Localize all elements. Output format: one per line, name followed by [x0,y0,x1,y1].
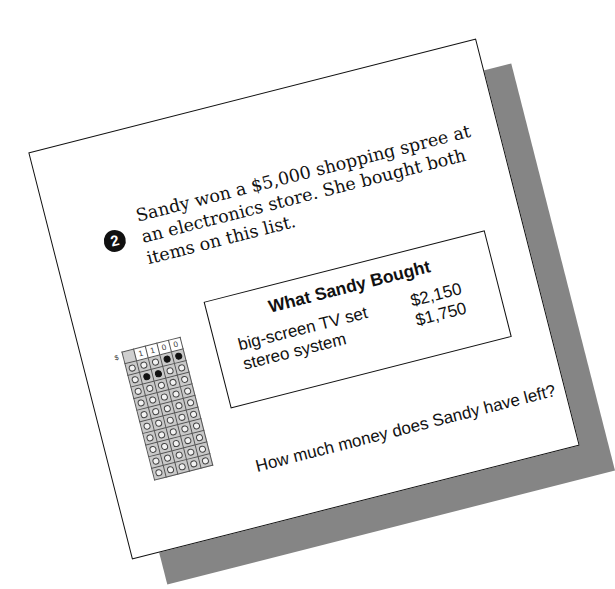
answer-bubble-icon[interactable] [181,425,190,434]
worksheet-card-wrap: 2 Sandy won a $5,000 shopping spree at a… [28,38,579,559]
answer-bubble-icon[interactable] [137,399,146,408]
answer-bubble-icon[interactable] [157,382,166,391]
answer-bubble-icon[interactable] [146,384,155,393]
answer-bubble-icon[interactable] [178,413,187,422]
answer-bubble-icon[interactable] [166,416,175,425]
answer-bubble-icon[interactable] [195,434,204,443]
answer-bubble-icon[interactable] [183,387,192,396]
answer-bubble-icon[interactable] [181,376,190,385]
answer-bubble-icon[interactable] [187,448,196,457]
answer-bubble-icon[interactable] [189,410,198,419]
answer-bubble-icon[interactable] [134,387,143,396]
answer-bubble-icon[interactable] [192,422,201,431]
answer-bubble-icon[interactable] [143,422,152,431]
answer-bubble-icon[interactable] [146,434,155,443]
answer-bubble-icon[interactable] [190,460,199,469]
answer-bubble-icon[interactable] [169,428,178,437]
answer-bubble-icon[interactable] [131,376,140,385]
answer-bubble-grid[interactable]: $ 1100 [121,337,213,481]
answer-bubble-icon[interactable] [198,445,207,454]
answer-bubble-icon[interactable] [166,367,175,376]
answer-bubble-icon[interactable] [149,396,158,405]
purchase-table: What Sandy Bought big-screen TV set $2,1… [204,230,512,408]
answer-bubble-icon[interactable] [201,457,210,466]
problem-number-badge: 2 [101,228,128,255]
answer-bubble-icon[interactable] [160,393,169,402]
answer-bubble-icon[interactable] [160,443,169,452]
answer-bubble-icon[interactable] [128,364,137,373]
answer-bubble-icon[interactable] [184,437,193,446]
answer-bubble-icon[interactable] [172,440,181,449]
answer-bubble-icon[interactable] [143,373,152,382]
answer-bubble-icon[interactable] [140,411,149,420]
problem-question: How much money does Sandy have left? [254,381,558,477]
answer-bubble-icon[interactable] [178,463,187,472]
answer-bubble-icon[interactable] [169,379,178,388]
answer-bubble-icon[interactable] [163,355,172,364]
answer-bubble-icon[interactable] [140,361,149,370]
answer-bubble-icon[interactable] [178,364,187,373]
answer-bubble-icon[interactable] [175,402,184,411]
answer-bubble-icon[interactable] [154,370,163,379]
answer-bubble-icon[interactable] [157,431,166,440]
bubble-cell[interactable] [198,454,213,469]
bubble-table: 1100 [121,337,213,481]
answer-bubble-icon[interactable] [151,358,160,367]
answer-bubble-icon[interactable] [163,454,172,463]
answer-bubble-icon[interactable] [166,466,175,475]
answer-bubble-icon[interactable] [152,408,161,417]
answer-bubble-icon[interactable] [163,405,172,414]
answer-bubble-icon[interactable] [172,390,181,399]
answer-bubble-icon[interactable] [152,457,161,466]
answer-bubble-icon[interactable] [175,451,184,460]
answer-bubble-icon[interactable] [186,399,195,408]
answer-bubble-icon[interactable] [175,352,184,361]
answer-bubble-icon[interactable] [155,469,164,478]
answer-bubble-icon[interactable] [155,419,164,428]
currency-symbol: $ [114,354,120,362]
answer-bubble-icon[interactable] [149,446,158,455]
